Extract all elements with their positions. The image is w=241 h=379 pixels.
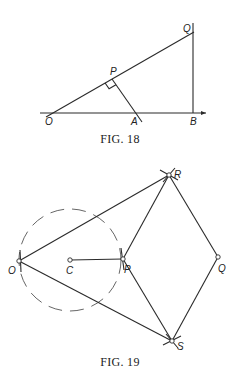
baseline-arrow <box>201 111 206 115</box>
point-r <box>167 173 171 177</box>
figure-19: O C P Q R S FIG. 19 <box>8 168 226 369</box>
right-angle-mark <box>105 83 116 89</box>
figures-canvas: O A B P Q FIG. 18 O C P Q R S FIG. 19 <box>0 0 241 379</box>
caption-fig-18: FIG. 18 <box>100 132 139 146</box>
label-p: P <box>124 264 131 275</box>
line-rq <box>169 175 218 257</box>
label-q: Q <box>218 263 226 274</box>
label-r: R <box>174 169 181 180</box>
line-os <box>19 261 172 341</box>
line-oq <box>46 32 194 117</box>
label-p: P <box>110 66 117 77</box>
label-q: Q <box>183 23 191 34</box>
figure-18: O A B P Q FIG. 18 <box>40 23 206 146</box>
label-c: C <box>66 265 74 276</box>
label-a: A <box>130 116 138 127</box>
line-qs <box>172 257 218 341</box>
point-q <box>216 255 220 259</box>
caption-fig-19: FIG. 19 <box>100 355 139 369</box>
point-c <box>68 258 72 262</box>
point-s <box>170 339 174 343</box>
label-s: S <box>177 341 184 352</box>
point-o <box>17 259 21 263</box>
label-o: O <box>45 116 53 127</box>
point-p <box>121 257 125 261</box>
line-cp <box>70 259 123 260</box>
label-o: O <box>8 265 16 276</box>
label-b: B <box>190 116 197 127</box>
